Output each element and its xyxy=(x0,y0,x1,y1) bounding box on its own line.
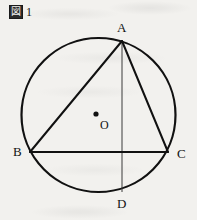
point-label-d: D xyxy=(117,197,126,210)
figure-container: 図 1 A B C D O xyxy=(0,0,197,220)
center-point-dot xyxy=(93,111,98,116)
segment-ac xyxy=(122,41,168,152)
geometry-diagram xyxy=(0,0,197,220)
point-label-o: O xyxy=(100,119,109,131)
point-label-a: A xyxy=(117,21,126,34)
point-label-c: C xyxy=(177,147,186,160)
segment-ab xyxy=(30,41,122,152)
point-label-b: B xyxy=(13,145,22,158)
